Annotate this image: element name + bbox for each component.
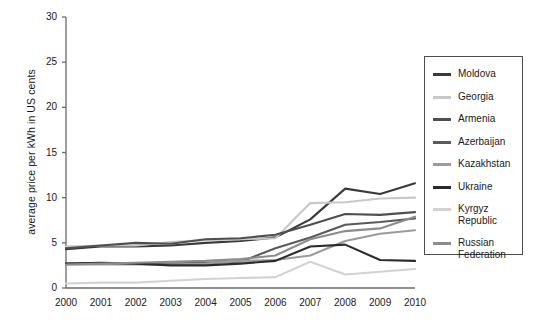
y-axis-tick-label: 25: [26, 56, 57, 67]
legend-item-label: Russian Federation: [458, 237, 506, 260]
legend-item[interactable]: Georgia: [433, 91, 494, 103]
legend-item[interactable]: Azerbaijan: [433, 136, 505, 148]
y-axis-tick-label: 15: [26, 147, 57, 158]
x-axis-tick-label: 2010: [395, 297, 435, 308]
legend-item-label: Georgia: [458, 91, 494, 103]
legend-item-label: Azerbaijan: [458, 136, 505, 148]
legend-item[interactable]: Moldova: [433, 68, 496, 80]
legend-item-label: Kazakhstan: [458, 158, 510, 170]
legend-swatch-icon: [433, 242, 451, 245]
legend-swatch-icon: [433, 96, 451, 99]
data-series-layer: [66, 183, 415, 283]
legend-item[interactable]: Ukraine: [433, 181, 492, 193]
y-axis-tick-label: 20: [26, 101, 57, 112]
y-axis-tick-label: 10: [26, 192, 57, 203]
legend-item[interactable]: Armenia: [433, 113, 495, 125]
legend-swatch-icon: [433, 186, 451, 189]
legend-item[interactable]: Russian Federation: [433, 237, 506, 260]
legend-swatch-icon: [433, 141, 451, 144]
legend-item-label: Ukraine: [458, 181, 492, 193]
legend-item-label: Kyrgyz Republic: [458, 203, 497, 226]
y-axis-tick-label: 30: [26, 11, 57, 22]
legend-item-label: Armenia: [458, 113, 495, 125]
y-axis-tick-label: 0: [26, 282, 57, 293]
legend-item[interactable]: Kyrgyz Republic: [433, 203, 497, 226]
chart-legend: MoldovaGeorgiaArmeniaAzerbaijanKazakhsta…: [424, 56, 523, 255]
legend-item[interactable]: Kazakhstan: [433, 158, 510, 170]
legend-swatch-icon: [433, 73, 451, 76]
legend-swatch-icon: [433, 208, 451, 211]
line-chart: average price per kWh in US cents 051015…: [0, 0, 537, 325]
legend-swatch-icon: [433, 163, 451, 166]
legend-item-label: Moldova: [458, 68, 496, 80]
legend-swatch-icon: [433, 118, 451, 121]
y-axis-tick-label: 5: [26, 237, 57, 248]
